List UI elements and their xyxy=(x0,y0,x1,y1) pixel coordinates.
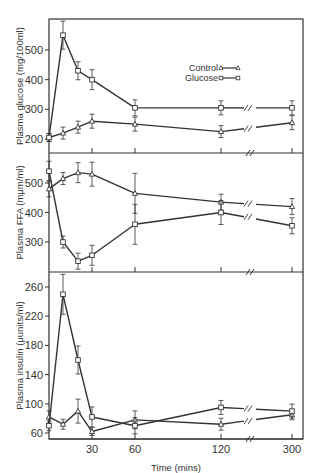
figure: 200300400500Plasma glucose (mg/100ml)300… xyxy=(0,0,319,473)
y-tick-label: 400 xyxy=(25,207,43,219)
y-tick-label: 60 xyxy=(31,427,43,439)
legend-label-control: Control xyxy=(189,63,218,73)
y-axis-label-glucose: Plasma glucose (mg/100ml) xyxy=(14,27,25,145)
square-marker xyxy=(47,423,52,428)
y-axis-label-insulin: Plasma insulin (μunits/ml) xyxy=(14,301,25,409)
x-tick-label: 120 xyxy=(212,443,230,455)
x-axis-label: Time (mins) xyxy=(151,462,201,473)
triangle-marker xyxy=(75,408,80,413)
square-marker xyxy=(290,106,295,111)
chart-canvas: 200300400500Plasma glucose (mg/100ml)300… xyxy=(0,0,319,473)
legend: ControlGlucose xyxy=(185,63,240,83)
square-marker xyxy=(76,68,81,73)
square-marker xyxy=(133,423,138,428)
panel-insulin: 60100140180220260Plasma insulin (μunits/… xyxy=(14,274,303,442)
square-marker xyxy=(90,77,95,82)
y-tick-label: 180 xyxy=(25,339,43,351)
square-marker xyxy=(90,415,95,420)
series-control xyxy=(46,162,294,214)
series-glucose xyxy=(47,274,295,433)
y-tick-label: 200 xyxy=(25,133,43,145)
square-marker xyxy=(219,210,224,215)
plot-frame xyxy=(49,19,303,439)
panel-ffa: 300400500Plasma FFA (mμm/ml) xyxy=(14,161,303,275)
square-marker xyxy=(61,33,66,38)
panel-glucose: 200300400500Plasma glucose (mg/100ml) xyxy=(14,21,303,156)
x-tick-label: 60 xyxy=(129,443,141,455)
square-marker xyxy=(47,169,52,174)
y-tick-label: 300 xyxy=(25,103,43,115)
square-marker xyxy=(290,409,295,414)
y-tick-label: 140 xyxy=(25,369,43,381)
y-tick-label: 500 xyxy=(25,44,43,56)
square-marker xyxy=(90,253,95,258)
series-glucose xyxy=(47,161,295,269)
square-marker xyxy=(61,240,66,245)
square-marker xyxy=(219,106,224,111)
y-tick-label: 100 xyxy=(25,398,43,410)
y-tick-label: 400 xyxy=(25,74,43,86)
square-marker xyxy=(76,259,81,264)
series-control xyxy=(46,114,294,141)
series-control xyxy=(46,399,294,435)
square-marker xyxy=(290,223,295,228)
y-tick-label: 260 xyxy=(25,281,43,293)
square-marker xyxy=(76,358,81,363)
square-marker xyxy=(61,292,66,297)
series-glucose xyxy=(47,21,295,141)
legend-label-glucose: Glucose xyxy=(185,73,218,83)
y-tick-label: 500 xyxy=(25,177,43,189)
square-marker xyxy=(219,405,224,410)
square-marker xyxy=(133,222,138,227)
y-tick-label: 220 xyxy=(25,310,43,322)
x-tick-label: 30 xyxy=(86,443,98,455)
y-axis-label-ffa: Plasma FFA (mμm/ml) xyxy=(14,165,25,259)
x-tick-label: 300 xyxy=(283,443,301,455)
y-tick-label: 300 xyxy=(25,236,43,248)
square-marker xyxy=(133,106,138,111)
x-axis-ticks: 3060120300 xyxy=(86,443,301,455)
square-marker xyxy=(47,135,52,140)
